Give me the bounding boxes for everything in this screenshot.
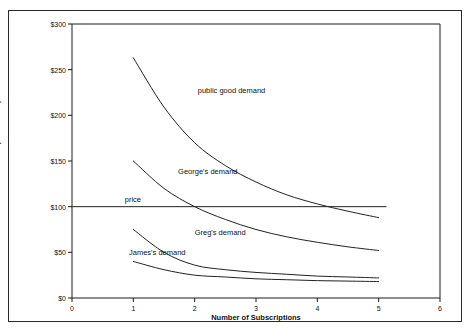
curve-label: public good demand bbox=[198, 86, 266, 95]
x-tick-label: 2 bbox=[193, 305, 197, 312]
curve-label: George's demand bbox=[178, 167, 237, 176]
y-tick-label: $100 bbox=[34, 203, 66, 210]
curve-label: Greg's demand bbox=[195, 228, 246, 237]
y-tick-label: $150 bbox=[34, 158, 66, 165]
demand-curve bbox=[133, 261, 378, 281]
y-tick-label: $0 bbox=[34, 295, 66, 302]
x-tick-label: 4 bbox=[315, 305, 319, 312]
y-axis-title: Cost per Subscription bbox=[0, 85, 1, 163]
y-tick-label: $200 bbox=[34, 112, 66, 119]
demand-curve bbox=[133, 161, 378, 251]
x-tick-label: 3 bbox=[254, 305, 258, 312]
y-tick-label: $300 bbox=[34, 21, 66, 28]
tick-marks bbox=[68, 24, 440, 302]
x-axis-title: Number of Subscriptions bbox=[211, 313, 301, 322]
x-tick-label: 5 bbox=[377, 305, 381, 312]
x-tick-label: 0 bbox=[70, 305, 74, 312]
curve-label: price bbox=[125, 195, 141, 204]
x-tick-label: 6 bbox=[438, 305, 442, 312]
plot-box-border bbox=[72, 24, 440, 298]
curve-label: James's demand bbox=[129, 248, 185, 257]
x-tick-label: 1 bbox=[131, 305, 135, 312]
y-tick-label: $50 bbox=[34, 249, 66, 256]
demand-curve bbox=[133, 58, 378, 218]
y-tick-label: $250 bbox=[34, 66, 66, 73]
axes-group bbox=[72, 24, 440, 298]
